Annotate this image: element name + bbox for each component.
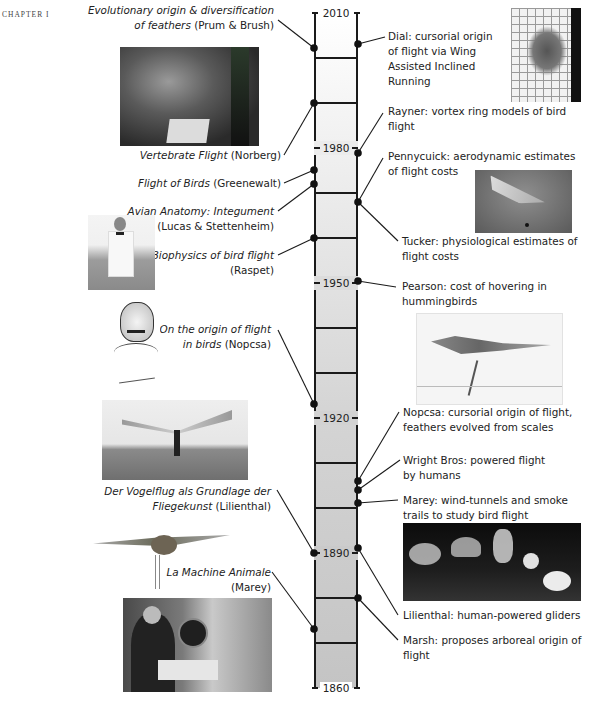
lilienthal-glider-photo xyxy=(102,400,248,480)
dial-photo xyxy=(511,8,581,102)
nopcsa-portrait xyxy=(112,298,160,386)
event-greenewalt: Flight of Birds (Greenewalt) xyxy=(138,176,281,191)
event-raspet: Biophysics of bird flight(Raspet) xyxy=(152,248,274,278)
bird-model-photo xyxy=(93,525,230,590)
event-lilienthal-gliders: Lilienthal: human-powered gliders xyxy=(403,608,580,623)
event-tucker: Tucker: physiological estimates offlight… xyxy=(402,234,577,264)
event-rayner: Rayner: vortex ring models of birdflight xyxy=(388,104,566,134)
event-nopcsa-origin: On the origin of flightin birds (Nopcsa) xyxy=(160,322,271,352)
event-marsh: Marsh: proposes arboreal origin offlight xyxy=(403,633,581,663)
event-marey-windtunnel: Marey: wind-tunnels and smoketrails to s… xyxy=(403,493,568,523)
norberg-photo xyxy=(120,47,259,146)
nopcsa-dinosaur-drawing xyxy=(416,313,563,405)
event-lilienthal-book: Der Vogelflug als Grundlage derFliegekun… xyxy=(104,484,271,514)
event-pearson: Pearson: cost of hovering inhummingbirds xyxy=(402,279,547,309)
event-prum-brush: Evolutionary origin & diversificationof … xyxy=(88,3,274,33)
event-dial: Dial: cursorial originof flight via Wing… xyxy=(388,29,493,89)
event-norberg: Vertebrate Flight (Norberg) xyxy=(140,148,281,163)
event-nopcsa-cursorial: Nopcsa: cursorial origin of flight,feath… xyxy=(403,405,572,435)
event-wright-bros: Wright Bros: powered flightby humans xyxy=(403,453,545,483)
marey-photo xyxy=(123,598,272,692)
raspet-photo xyxy=(88,215,155,290)
marey-smoke-photo xyxy=(403,523,581,601)
pennycuick-photo xyxy=(475,170,572,233)
